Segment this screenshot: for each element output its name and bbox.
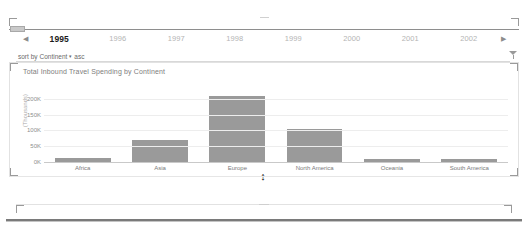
bar-slot-africa: [44, 94, 121, 162]
empty-panel-mid-tick: [259, 204, 269, 205]
chart-bottom-divider: [12, 176, 516, 177]
y-tick-label-200K: 200K: [27, 96, 41, 102]
year-item-1999[interactable]: 1999: [264, 34, 323, 43]
year-item-2002[interactable]: 2002: [440, 34, 499, 43]
selection-corner-top-left: [9, 18, 17, 26]
x-label-asia: Asia: [121, 165, 198, 171]
bar-europe[interactable]: [209, 96, 265, 162]
empty-panel-below[interactable]: [16, 204, 512, 212]
y-tick-label-0K: 0K: [34, 159, 41, 165]
gridline-150K: [44, 115, 508, 116]
year-filter-panel: ◀ 1995 1996 1997 1998 1999 2000 2001 200…: [9, 18, 519, 48]
year-slider-track[interactable]: [9, 29, 519, 30]
chart-corner-top-right: [510, 63, 518, 71]
next-year-arrow-icon[interactable]: ▶: [498, 35, 508, 42]
x-label-south-america: South America: [431, 165, 508, 171]
chart-panel[interactable]: Total Inbound Travel Spending by Contine…: [9, 62, 519, 177]
filter-funnel-icon[interactable]: [509, 50, 518, 60]
bar-slot-europe: [199, 94, 276, 162]
bar-slot-asia: [121, 94, 198, 162]
sort-control[interactable]: sort by Continent ▾ asc: [18, 52, 84, 61]
year-item-2000[interactable]: 2000: [323, 34, 382, 43]
bottom-rule-shadow: [6, 221, 522, 222]
gridline-50K: [44, 146, 508, 147]
gridline-200K: [44, 99, 508, 100]
sort-direction-value[interactable]: asc: [74, 53, 84, 60]
chart-corner-bottom-left: [10, 168, 18, 176]
filter-funnel-stem: [513, 55, 514, 59]
bar-asia[interactable]: [132, 140, 188, 162]
year-item-2001[interactable]: 2001: [381, 34, 440, 43]
sort-field-value[interactable]: Continent: [40, 53, 68, 60]
x-axis-labels: AfricaAsiaEuropeNorth AmericaOceaniaSout…: [44, 165, 508, 171]
y-tick-label-50K: 50K: [30, 143, 41, 149]
year-list: ◀ 1995 1996 1997 1998 1999 2000 2001 200…: [20, 32, 508, 45]
chart-corner-top-left: [10, 63, 18, 71]
x-label-africa: Africa: [44, 165, 121, 171]
y-tick-label-100K: 100K: [27, 127, 41, 133]
y-tick-label-150K: 150K: [27, 112, 41, 118]
bar-slot-south-america: [431, 94, 508, 162]
gridline-0K: [44, 162, 508, 163]
x-label-oceania: Oceania: [353, 165, 430, 171]
empty-panel-corner-top-right: [504, 205, 512, 213]
year-item-1995[interactable]: 1995: [30, 34, 89, 44]
chart-plot-area: 0K50K100K150K200K: [44, 94, 508, 162]
chart-corner-bottom-right: [510, 168, 518, 176]
year-slider-handle[interactable]: [10, 26, 25, 32]
selection-corner-top-right: [511, 18, 519, 26]
bar-series: [44, 94, 508, 162]
year-item-1997[interactable]: 1997: [147, 34, 206, 43]
empty-panel-corner-top-left: [16, 205, 24, 213]
chart-title: Total Inbound Travel Spending by Contine…: [23, 68, 165, 75]
year-item-1998[interactable]: 1998: [206, 34, 265, 43]
chevron-down-icon[interactable]: ▾: [69, 54, 72, 59]
x-label-north-america: North America: [276, 165, 353, 171]
year-item-1996[interactable]: 1996: [89, 34, 148, 43]
gridline-100K: [44, 130, 508, 131]
sort-by-label: sort by: [18, 53, 38, 60]
bar-slot-oceania: [353, 94, 430, 162]
bar-slot-north-america: [276, 94, 353, 162]
prev-year-arrow-icon[interactable]: ◀: [20, 35, 30, 42]
